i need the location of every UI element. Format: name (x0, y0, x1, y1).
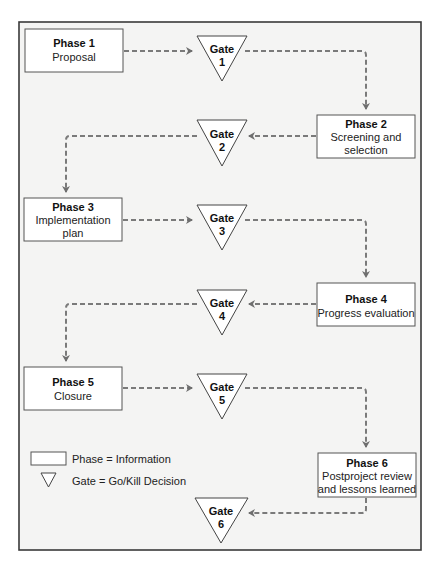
gate-1-number: 1 (219, 56, 225, 68)
phase-1-title: Phase 1 (53, 37, 95, 49)
phase-4-box: Phase 4 Progress evaluation (317, 283, 415, 326)
gate-2-label: Gate (210, 128, 234, 140)
gate-3-label: Gate (210, 212, 234, 224)
phase-6-desc-line1: Postproject review (322, 470, 412, 482)
phase-3-desc-line1: Implementation (35, 214, 110, 226)
phase-3-title: Phase 3 (52, 201, 94, 213)
phase-2-box: Phase 2 Screening and selection (317, 115, 415, 158)
stage-gate-diagram: Phase 1 Proposal Phase 2 Screening and s… (0, 0, 439, 578)
legend-phase-swatch (31, 452, 66, 465)
gate-4-number: 4 (219, 310, 226, 322)
gate-2-number: 2 (219, 141, 225, 153)
phase-2-desc-line2: selection (344, 144, 387, 156)
phase-3-desc-line2: plan (63, 227, 84, 239)
phase-5-desc: Closure (54, 390, 92, 402)
gate-6-label: Gate (209, 505, 233, 517)
gate-6-number: 6 (218, 518, 224, 530)
gate-1-label: Gate (210, 43, 234, 55)
phase-1-box: Phase 1 Proposal (25, 29, 123, 72)
phase-5-title: Phase 5 (52, 376, 94, 388)
phase-6-box: Phase 6 Postproject review and lessons l… (318, 453, 416, 497)
gate-3-number: 3 (219, 225, 225, 237)
phase-4-desc: Progress evaluation (317, 307, 414, 319)
legend-gate-label: Gate = Go/Kill Decision (72, 475, 186, 487)
legend-phase-label: Phase = Information (72, 453, 171, 465)
phase-2-title: Phase 2 (345, 118, 387, 130)
phase-6-title: Phase 6 (346, 457, 388, 469)
phase-3-box: Phase 3 Implementation plan (24, 198, 122, 241)
gate-5-label: Gate (210, 381, 234, 393)
phase-6-desc-line2: and lessons learned (318, 483, 416, 495)
phase-4-title: Phase 4 (345, 293, 387, 305)
gate-4-label: Gate (210, 297, 234, 309)
phase-1-desc: Proposal (52, 51, 95, 63)
gate-5-number: 5 (219, 394, 225, 406)
phase-2-desc-line1: Screening and (331, 131, 402, 143)
phase-5-box: Phase 5 Closure (24, 367, 122, 410)
